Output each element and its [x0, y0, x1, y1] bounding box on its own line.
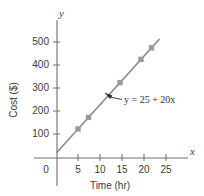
x-tick-label-0: 0 — [43, 164, 49, 175]
cost-vs-time-chart: 100 200 300 400 500 0 5 10 15 20 25 y x … — [0, 0, 204, 196]
x-tick-label-25: 25 — [160, 164, 172, 175]
x-axis-tick-labels: 0 5 10 15 20 25 — [43, 164, 172, 175]
chart-svg: 100 200 300 400 500 0 5 10 15 20 25 y x … — [0, 0, 204, 196]
x-axis-variable-label: x — [189, 145, 195, 157]
x-tick-label-10: 10 — [94, 164, 106, 175]
y-axis-tick-labels: 100 200 300 400 500 — [32, 36, 49, 139]
equation-annotation-label: y = 25 + 20x — [124, 94, 175, 105]
y-tick-label-100: 100 — [32, 128, 49, 139]
x-tick-label-5: 5 — [75, 164, 81, 175]
x-axis-title: Time (hr) — [90, 180, 130, 191]
data-point-marker — [149, 45, 154, 50]
y-axis-title: Cost ($) — [8, 82, 19, 118]
data-point-marker — [86, 115, 91, 120]
y-axis-variable-label: y — [58, 7, 64, 19]
data-point-marker — [75, 126, 80, 131]
y-tick-label-500: 500 — [32, 36, 49, 47]
x-tick-label-15: 15 — [116, 164, 128, 175]
data-point-marker — [138, 57, 143, 62]
y-tick-label-300: 300 — [32, 82, 49, 93]
y-tick-label-400: 400 — [32, 59, 49, 70]
callout-leader-line — [110, 97, 122, 100]
x-tick-label-20: 20 — [138, 164, 150, 175]
equation-callout: y = 25 + 20x — [105, 93, 176, 106]
data-point-marker — [117, 80, 122, 85]
y-tick-label-200: 200 — [32, 105, 49, 116]
